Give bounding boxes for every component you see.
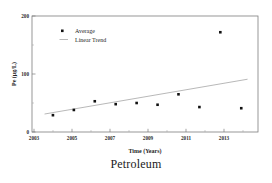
y-tick-label-100: 100	[21, 71, 29, 77]
x-tick-label-2003: 2003	[29, 135, 40, 141]
data-point-outlier	[219, 31, 222, 34]
figure-petroleum: 200 100 0 Pe (µg/L) 2003 2005 2007 2009 …	[0, 0, 272, 183]
data-point	[73, 109, 76, 112]
x-tick-label-2005: 2005	[67, 135, 78, 141]
x-tick-label-2013: 2013	[219, 135, 230, 141]
data-point	[156, 103, 159, 106]
figure-caption: Petroleum	[0, 157, 272, 172]
data-point	[114, 103, 117, 106]
data-point	[240, 107, 243, 110]
legend-marker-average	[61, 30, 64, 33]
legend-label-average: Average	[75, 28, 95, 34]
x-tick-label-2011: 2011	[181, 135, 191, 141]
data-point	[177, 93, 180, 96]
legend-label-linear-trend: Linear Trend	[75, 37, 106, 43]
scatter-plot: 200 100 0 Pe (µg/L) 2003 2005 2007 2009 …	[0, 0, 272, 183]
data-point	[135, 102, 138, 105]
x-tick-label-2007: 2007	[105, 135, 116, 141]
data-point	[52, 114, 55, 117]
data-point	[198, 106, 201, 109]
x-tick-label-2009: 2009	[143, 135, 154, 141]
y-tick-label-200: 200	[21, 13, 29, 19]
plot-frame	[32, 16, 258, 132]
y-axis-title: Pe (µg/L)	[11, 62, 18, 86]
data-point	[93, 100, 96, 103]
x-axis-title: Time (Years)	[128, 148, 161, 155]
